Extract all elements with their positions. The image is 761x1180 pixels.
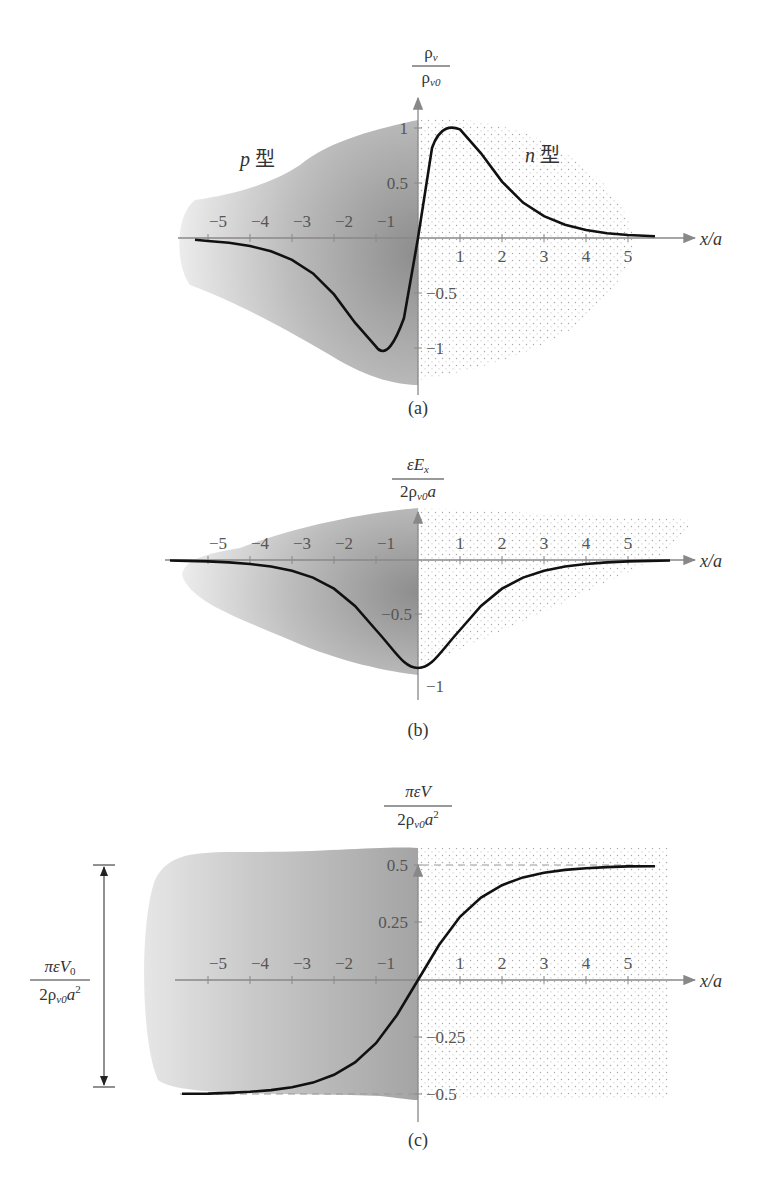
tick-label: −1 — [377, 212, 395, 231]
tick-label: 4 — [582, 954, 591, 973]
panel-c: −5 −4 −3 −2 −1 1 2 3 4 5 0.5 0.25 −0.25 … — [30, 782, 722, 1151]
panel-label-b: (b) — [408, 720, 429, 741]
tick-label: −4 — [251, 212, 270, 231]
tick-label: −4 — [251, 534, 270, 553]
y-axis-label: εEx 2ρv0a — [392, 455, 444, 502]
tick-label: −0.5 — [426, 1085, 457, 1104]
svg-text:εEx: εEx — [407, 455, 429, 475]
tick-label: −2 — [335, 954, 353, 973]
tick-label: 2 — [498, 247, 507, 266]
x-axis-label: x/a — [699, 971, 722, 991]
p-type-region — [144, 848, 418, 1100]
tick-label: −1 — [377, 954, 395, 973]
v0-span-annotation: πεV0 2ρv0a2 — [30, 865, 115, 1087]
y-axis-label: ρv ρv0 — [412, 43, 450, 88]
tick-label: −0.25 — [426, 1028, 465, 1047]
tick-label: 5 — [624, 954, 633, 973]
panel-a: −5 −4 −3 −2 −1 1 2 3 4 5 1 0.5 −0.5 −1 p… — [178, 43, 722, 419]
p-type-region — [179, 120, 418, 385]
tick-label: 5 — [624, 534, 633, 553]
tick-label: 3 — [540, 954, 549, 973]
tick-label: −3 — [293, 212, 311, 231]
tick-label: 3 — [540, 247, 549, 266]
panel-label-a: (a) — [408, 398, 428, 419]
tick-label: −3 — [293, 534, 311, 553]
tick-label: −5 — [209, 534, 227, 553]
tick-label: 1 — [456, 534, 465, 553]
tick-label: 2 — [498, 954, 507, 973]
tick-label: −2 — [335, 534, 353, 553]
svg-text:πεV: πεV — [405, 782, 433, 801]
tick-label: −1 — [426, 677, 444, 696]
n-type-region — [418, 508, 690, 668]
panel-b: −5 −4 −3 −2 −1 1 2 3 4 5 −0.5 −1 x/a εEx… — [165, 455, 722, 741]
tick-label: −3 — [293, 954, 311, 973]
tick-label: 0.5 — [387, 174, 408, 193]
tick-label: −0.5 — [426, 284, 457, 303]
n-type-region — [418, 848, 668, 1100]
tick-label: −1 — [426, 339, 444, 358]
y-axis-label: πεV 2ρv0a2 — [384, 782, 452, 830]
svg-text:ρv: ρv — [424, 43, 437, 63]
svg-text:2ρv0a2: 2ρv0a2 — [39, 983, 80, 1005]
svg-text:2ρv0a2: 2ρv0a2 — [397, 808, 438, 830]
svg-text:2ρv0a: 2ρv0a — [400, 482, 436, 502]
tick-label: 4 — [582, 247, 591, 266]
tick-label: 3 — [540, 534, 549, 553]
tick-label: 1 — [400, 119, 409, 138]
tick-label: 0.25 — [378, 913, 408, 932]
tick-label: 1 — [456, 247, 465, 266]
tick-label: −2 — [335, 212, 353, 231]
tick-label: 0.5 — [387, 856, 408, 875]
x-axis-label: x/a — [699, 229, 722, 249]
tick-label: 1 — [456, 954, 465, 973]
figure: −5 −4 −3 −2 −1 1 2 3 4 5 1 0.5 −0.5 −1 p… — [0, 0, 761, 1180]
tick-label: 5 — [624, 247, 633, 266]
tick-label: −4 — [251, 954, 270, 973]
tick-label: 4 — [582, 534, 591, 553]
n-type-label: n 型 — [525, 144, 560, 166]
svg-text:πεV0: πεV0 — [44, 957, 76, 977]
tick-label: −5 — [209, 212, 227, 231]
tick-label: −0.5 — [381, 605, 412, 624]
tick-label: −5 — [209, 954, 227, 973]
p-type-label: p 型 — [238, 148, 275, 171]
tick-label: 2 — [498, 534, 507, 553]
tick-label: −1 — [377, 534, 395, 553]
svg-text:ρv0: ρv0 — [422, 68, 441, 88]
x-axis-label: x/a — [699, 551, 722, 571]
panel-label-c: (c) — [408, 1130, 428, 1151]
